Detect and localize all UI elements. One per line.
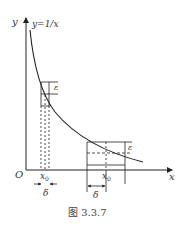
left-neighborhood bbox=[41, 82, 58, 170]
epsilon-label-left: ε bbox=[54, 83, 58, 92]
delta-label-right: δ bbox=[93, 190, 98, 200]
x0-label-right: x0 bbox=[102, 171, 111, 182]
origin-label: O bbox=[15, 169, 23, 180]
epsilon-label-right: ε bbox=[128, 143, 132, 152]
y-axis-label: y bbox=[11, 16, 18, 27]
function-label: y=1/x bbox=[31, 19, 58, 29]
figure-canvas: y y=1/x x O ε ε x0 x0 δ δ 图 3.3.7 bbox=[0, 0, 185, 228]
figure-caption: 图 3.3.7 bbox=[68, 207, 107, 218]
delta-label-left: δ bbox=[43, 188, 48, 198]
x-axis-label: x bbox=[169, 171, 175, 182]
x0-label-left: x0 bbox=[40, 171, 49, 182]
right-neighborhood bbox=[87, 142, 132, 192]
